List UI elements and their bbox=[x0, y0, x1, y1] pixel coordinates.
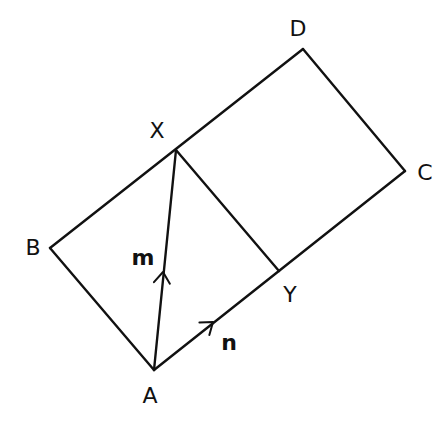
point-label-x: X bbox=[149, 120, 164, 142]
segment-bd bbox=[50, 49, 303, 248]
vector-label-m: m bbox=[132, 247, 155, 269]
point-label-y: Y bbox=[283, 284, 296, 306]
point-label-a: A bbox=[142, 385, 157, 407]
point-label-c: C bbox=[417, 162, 432, 184]
point-label-b: B bbox=[25, 237, 40, 259]
segment-ax bbox=[154, 150, 176, 370]
geometry-diagram bbox=[0, 0, 438, 424]
vector-label-n: n bbox=[221, 332, 237, 354]
point-label-d: D bbox=[290, 18, 307, 40]
segment-dc bbox=[303, 49, 405, 171]
segment-xy bbox=[176, 150, 279, 271]
